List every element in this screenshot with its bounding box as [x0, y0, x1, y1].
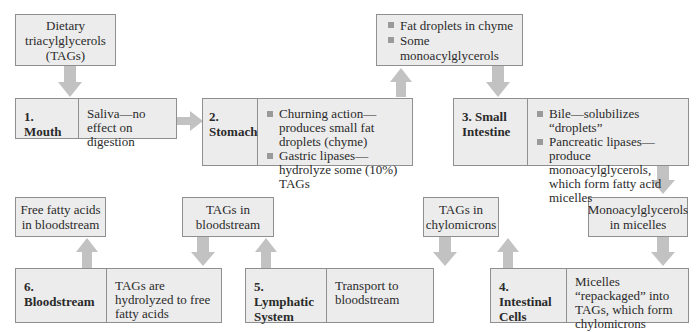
stage-mouth: 1. Mouth Saliva—no effect on digestion	[15, 98, 177, 139]
list-item: Bile—solubilizes “droplets”	[536, 107, 680, 135]
note-chylomicrons: TAGs in chylomicrons	[423, 197, 499, 237]
list-item: Fat droplets in chyme	[387, 18, 518, 33]
note-tags-bloodstream: TAGs in bloodstream	[182, 197, 274, 237]
note-text: TAGs in bloodstream	[187, 202, 269, 232]
stage-desc: Transport to bloodstream	[327, 269, 433, 322]
note-dietary-tags: Dietary triacylglycerols (TAGs)	[15, 14, 116, 66]
stage-intestinal-cells: 4. Intestinal Cells Micelles “repackaged…	[490, 268, 689, 323]
note-text: Monoacylglycerols in micelles	[588, 202, 688, 232]
note-text: Free fatty acids in bloodstream	[20, 202, 101, 232]
stage-desc: Bile—solubilizes “droplets” Pancreatic l…	[528, 99, 688, 165]
stage-title: 1. Mouth	[16, 99, 79, 138]
list-item: Gastric lipases—hydrolyze some (10%) TAG…	[266, 149, 404, 191]
stage-lymphatic-system: 5. Lymphatic System Transport to bloodst…	[245, 268, 434, 323]
stage-title: 5. Lymphatic System	[246, 269, 327, 322]
stage-desc: Saliva—no effect on digestion	[79, 99, 176, 138]
note-text: TAGs in chylomicrons	[426, 202, 497, 232]
stage-desc: Micelles “repackaged” into TAGs, which f…	[567, 269, 688, 322]
note-ffa-bloodstream: Free fatty acids in bloodstream	[15, 197, 106, 237]
note-text: Dietary triacylglycerols (TAGs)	[20, 18, 111, 63]
stage-small-intestine: 3. Small Intestine Bile—solubilizes “dro…	[453, 98, 689, 166]
stage-title: 2. Stomach	[203, 99, 258, 165]
stage-bloodstream: 6. Bloodstream TAGs are hydrolyzed to fr…	[15, 268, 222, 323]
stage-title: 4. Intestinal Cells	[491, 269, 567, 322]
list-item: Pancreatic lipases—produce monoacylglyce…	[536, 135, 680, 205]
list-item: Churning action—produces small fat dropl…	[266, 107, 404, 149]
stage-stomach: 2. Stomach Churning action—produces smal…	[202, 98, 413, 166]
list-item: Some monoacylglycerols	[387, 33, 518, 63]
note-chyme: Fat droplets in chyme Some monoacylglyce…	[376, 14, 523, 66]
stage-title: 3. Small Intestine	[454, 99, 528, 165]
stage-desc: TAGs are hydrolyzed to free fatty acids	[107, 269, 221, 322]
stage-title: 6. Bloodstream	[16, 269, 107, 322]
chyme-list: Fat droplets in chyme Some monoacylglyce…	[387, 18, 518, 63]
stage-desc: Churning action—produces small fat dropl…	[258, 99, 412, 165]
